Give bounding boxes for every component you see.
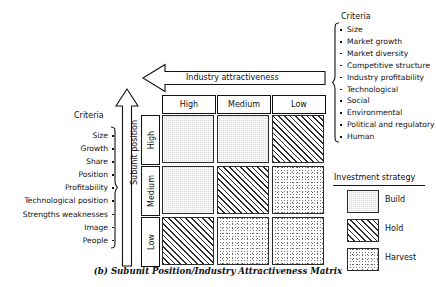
list-item: Technological <box>339 84 436 96</box>
row-header-low-label: Low <box>146 234 155 250</box>
list-item: Human <box>339 131 436 143</box>
matrix-cell-high-high <box>162 115 214 163</box>
matrix-cell-medium-low <box>272 166 324 214</box>
legend-label-build: Build <box>385 195 405 204</box>
legend-swatch-hold <box>347 219 379 242</box>
list-item: Size <box>339 24 436 36</box>
list-item: Technological position <box>0 194 118 207</box>
list-item: Environmental <box>339 107 436 119</box>
legend-item-hold: Hold <box>347 219 379 242</box>
row-header-medium: Medium <box>141 166 160 216</box>
legend-item-build: Build <box>347 190 379 213</box>
matrix-cell-high-low <box>272 115 324 163</box>
matrix-cell-low-high <box>162 217 214 265</box>
list-item: Market diversity <box>339 48 436 60</box>
figure-caption: (b) Subunit Position/Industry Attractive… <box>0 266 436 276</box>
industry-criteria-list: Criteria Size Market growth Market diver… <box>339 12 436 143</box>
list-item: Social <box>339 95 436 107</box>
row-header-high: High <box>141 115 160 165</box>
legend-underline <box>333 185 425 186</box>
industry-criteria-heading: Criteria <box>341 12 436 21</box>
row-header-low: Low <box>141 217 160 267</box>
list-item: Growth <box>0 142 118 155</box>
list-item: Strengths weaknesses <box>0 208 118 221</box>
subunit-criteria-heading: Criteria <box>74 111 104 121</box>
matrix-cell-medium-medium <box>217 166 269 214</box>
industry-criteria-items: Size Market growth Market diversity Comp… <box>339 24 436 143</box>
matrix-cell-low-medium <box>217 217 269 265</box>
legend-swatch-build <box>347 190 379 213</box>
subunit-position-label: Subunit position <box>130 125 140 185</box>
row-header-medium-label: Medium <box>146 175 155 207</box>
row-header-high-label: High <box>146 131 155 149</box>
list-item: Political and regulatory <box>339 119 436 131</box>
list-item: Industry profitability <box>339 72 436 84</box>
legend-label-harvest: Harvest <box>385 253 416 262</box>
legend-title: Investment strategy <box>334 173 415 183</box>
list-item: Image <box>0 221 118 234</box>
column-header-medium: Medium <box>217 95 271 114</box>
list-item: Competitive structure <box>339 60 436 72</box>
subunit-criteria-list: Size Growth Share Position Profitability… <box>0 129 118 247</box>
matrix-cell-low-low <box>272 217 324 265</box>
matrix-cell-high-medium <box>217 115 269 163</box>
list-item: Share <box>0 155 118 168</box>
list-item: Size <box>0 129 118 142</box>
column-header-low: Low <box>272 95 326 114</box>
industry-attractiveness-label: Industry attractiveness <box>186 73 279 83</box>
list-item: Position <box>0 168 118 181</box>
legend-label-hold: Hold <box>385 224 403 233</box>
list-item: Profitability <box>0 181 118 194</box>
list-item: People <box>0 234 118 247</box>
column-header-high: High <box>162 95 216 114</box>
list-item: Market growth <box>339 36 436 48</box>
matrix-cell-medium-high <box>162 166 214 214</box>
